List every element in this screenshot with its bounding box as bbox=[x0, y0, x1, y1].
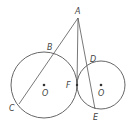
label-D: D bbox=[90, 55, 96, 64]
label-O-small: O bbox=[98, 89, 104, 98]
secant-AC bbox=[19, 18, 78, 104]
diagram-svg: A B C D E F O O bbox=[0, 0, 134, 126]
label-C: C bbox=[9, 104, 15, 113]
center-dot-O-small bbox=[100, 84, 103, 87]
label-E: E bbox=[93, 113, 99, 122]
label-F: F bbox=[66, 81, 71, 90]
label-A: A bbox=[74, 7, 80, 16]
tangent-point-F bbox=[76, 84, 78, 86]
label-B: B bbox=[47, 43, 53, 52]
label-O-large: O bbox=[42, 89, 48, 98]
center-dot-O-large bbox=[43, 84, 46, 87]
geometry-diagram: A B C D E F O O bbox=[0, 0, 134, 126]
tangent-AF bbox=[77, 18, 78, 85]
